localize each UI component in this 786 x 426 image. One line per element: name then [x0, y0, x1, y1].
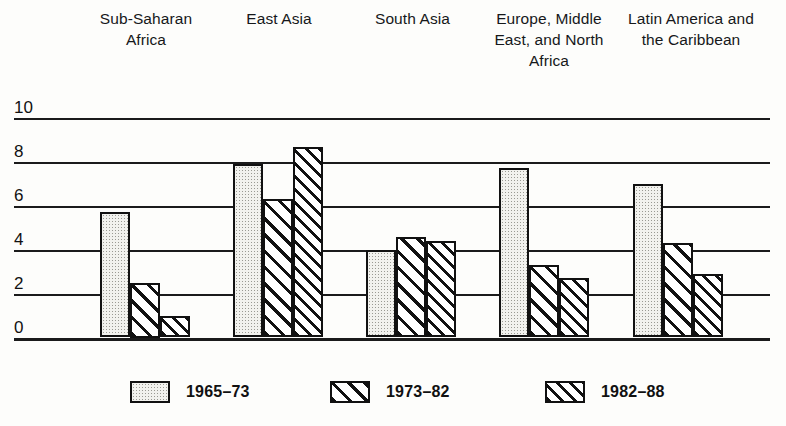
chart-legend: 1965–731973–821982–88 [0, 381, 786, 415]
legend-label: 1973–82 [386, 383, 450, 401]
plot-area: 0246810 [0, 0, 786, 426]
bar [100, 212, 130, 337]
bar [663, 243, 693, 337]
legend-swatch [330, 381, 370, 403]
bar [366, 250, 396, 338]
bar [426, 241, 456, 338]
bar [160, 316, 190, 338]
y-axis-tick-label: 4 [14, 230, 44, 250]
bar [293, 147, 323, 338]
bar [130, 283, 160, 338]
bar [529, 265, 559, 337]
gridline [14, 162, 770, 164]
bar-chart: Sub-SaharanAfricaEast AsiaSouth AsiaEuro… [0, 0, 786, 426]
legend-swatch [545, 381, 585, 403]
bar [693, 274, 723, 338]
y-axis-tick-label: 2 [14, 274, 44, 294]
legend-label: 1965–73 [186, 383, 250, 401]
y-axis-tick-label: 6 [14, 186, 44, 206]
y-axis-tick-label: 0 [14, 318, 44, 338]
gridline [14, 118, 770, 120]
y-axis-tick-label: 8 [14, 142, 44, 162]
legend-item: 1973–82 [330, 381, 450, 403]
bar [559, 278, 589, 337]
legend-item: 1965–73 [130, 381, 250, 403]
bar [263, 199, 293, 337]
y-axis-tick-label: 10 [14, 98, 44, 118]
axis-baseline [14, 338, 770, 341]
legend-swatch [130, 381, 170, 403]
legend-item: 1982–88 [545, 381, 665, 403]
legend-label: 1982–88 [601, 383, 665, 401]
bar [396, 237, 426, 338]
bar [233, 164, 263, 337]
bar [499, 168, 529, 337]
bar [633, 184, 663, 338]
